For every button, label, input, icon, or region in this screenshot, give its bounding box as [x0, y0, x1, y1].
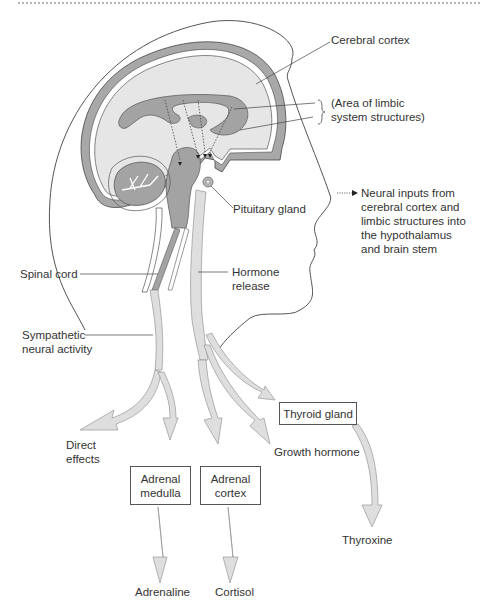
curly-brace-icon: [318, 100, 325, 124]
head-brain-illustration: [0, 0, 480, 610]
box-thyroid-gland-label: Thyroid gland: [283, 407, 353, 421]
label-sympathetic-line2: neural activity: [22, 342, 92, 356]
label-limbic-line2: system structures): [331, 110, 425, 124]
label-thyroxine: Thyroxine: [342, 533, 393, 547]
label-hormone-release-line2: release: [232, 279, 270, 293]
label-sympathetic-line1: Sympathetic: [22, 328, 85, 342]
box-adrenal-cortex: Adrenal cortex: [200, 466, 261, 505]
legend-line2: cerebral cortex and: [361, 200, 459, 214]
legend-line4: the hypothalamus: [361, 228, 452, 242]
sympathetic-pathway: [150, 290, 163, 370]
label-growth-hormone: Growth hormone: [274, 445, 360, 459]
box-adrenal-cortex-line1: Adrenal: [211, 472, 251, 486]
label-cerebral-cortex: Cerebral cortex: [331, 33, 410, 47]
legend-line5: and brain stem: [361, 242, 437, 256]
label-direct-effects-line2: effects: [66, 452, 100, 466]
dotted-arrow-icon: [352, 190, 358, 196]
box-thyroid-gland: Thyroid gland: [279, 402, 357, 425]
hormone-pathway: [191, 190, 208, 360]
label-pituitary-gland: Pituitary gland: [233, 202, 306, 216]
legend-line1: Neural inputs from: [361, 186, 455, 200]
box-adrenal-medulla-line2: medulla: [140, 486, 180, 500]
box-adrenal-medulla: Adrenal medulla: [130, 466, 191, 505]
label-direct-effects-line1: Direct: [66, 438, 96, 452]
arrow-cortisol: [223, 507, 238, 583]
arrow-direct-effects: [80, 370, 161, 430]
box-adrenal-medulla-line1: Adrenal: [141, 472, 181, 486]
label-adrenaline: Adrenaline: [135, 585, 190, 599]
arrow-adrenaline: [153, 507, 167, 583]
label-spinal-cord: Spinal cord: [20, 267, 78, 281]
label-hormone-release-line1: Hormone: [232, 265, 279, 279]
box-adrenal-cortex-line2: cortex: [215, 486, 246, 500]
arrow-adrenal-medulla: [158, 372, 178, 440]
label-limbic-line1: (Area of limbic: [331, 96, 405, 110]
legend-line3: limbic structures into: [361, 214, 466, 228]
arrow-thyroxine: [352, 424, 382, 527]
label-cortisol: Cortisol: [215, 585, 254, 599]
cerebellum: [114, 162, 165, 205]
